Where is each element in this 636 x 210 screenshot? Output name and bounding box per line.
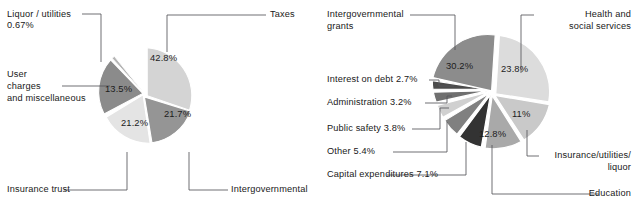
left-callout-insurance-trust: Insurance trust [7, 184, 70, 195]
right-callout-insurance-utilities-liquor-line1: Insurance/utilities/ [501, 150, 631, 161]
right-callout-insurance-utilities-liquor-line2: liquor [501, 162, 631, 173]
two-pie-chart-figure: 42.8% 21.7% 21.2% 13.5% Liquor / utiliti… [0, 0, 636, 210]
right-value-health-social: 23.8% [501, 63, 528, 74]
left-value-intergovernmental: 21.7% [164, 108, 191, 119]
right-callout-intergov-grants-line2: grants [327, 21, 353, 32]
right-callout-health-social-line1: Health and [511, 9, 631, 20]
left-callout-intergovernmental: Intergovernmental [231, 184, 308, 195]
left-pie-chart [62, 14, 266, 190]
leader-liquor-utilities [82, 14, 101, 62]
right-callout-other: Other 5.4% [327, 146, 375, 157]
left-callout-taxes: Taxes [270, 9, 295, 20]
leader-intergovernmental [189, 152, 228, 190]
left-callout-user-charges-line3: and miscellaneous [7, 93, 86, 104]
right-callout-interest-on-debt: Interest on debt 2.7% [327, 74, 418, 85]
right-callout-health-social-line2: social services [511, 21, 631, 32]
leader-taxes [167, 15, 266, 52]
left-callout-user-charges-line2: charges [7, 81, 41, 92]
leader-insurance-trust [64, 152, 127, 190]
leader-intergov-grants [410, 15, 455, 50]
left-callout-liquor-utilities-line1: Liquor / utilities [7, 9, 71, 20]
right-callout-education: Education [501, 188, 631, 199]
right-callout-intergov-grants-line1: Intergovernmental [327, 9, 404, 20]
right-callout-capital-expenditures: Capital expenditures 7.1% [327, 169, 438, 180]
left-value-insurance-trust: 21.2% [121, 117, 148, 128]
right-callout-administration: Administration 3.2% [327, 97, 412, 108]
left-value-user-charges: 13.5% [105, 83, 132, 94]
right-callout-public-safety: Public safety 3.8% [327, 123, 405, 134]
left-callout-user-charges-line1: User [7, 69, 27, 80]
left-callout-liquor-utilities-line2: 0.67% [7, 20, 34, 31]
right-value-intergovernmental-grants: 30.2% [446, 60, 473, 71]
left-value-taxes: 42.8% [150, 52, 177, 63]
right-value-education: 12.8% [479, 128, 506, 139]
right-value-insurance-utilities-liquor: 11% [512, 108, 530, 119]
